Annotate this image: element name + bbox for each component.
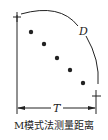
label-t: T bbox=[53, 102, 62, 115]
label-d: D bbox=[78, 25, 88, 38]
arrowhead-left bbox=[17, 106, 25, 110]
distance-arc bbox=[21, 10, 98, 84]
echo-dots bbox=[29, 30, 85, 85]
arrowhead-right bbox=[88, 106, 96, 110]
caption: M模式法测量距离 bbox=[0, 117, 108, 132]
